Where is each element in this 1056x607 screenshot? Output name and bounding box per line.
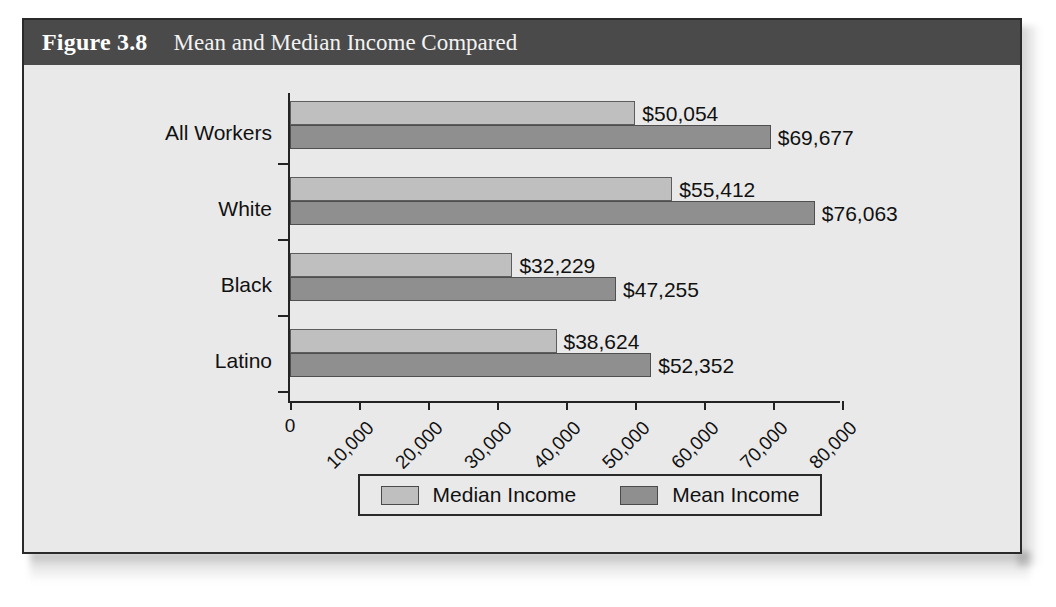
x-axis-tick — [497, 401, 499, 410]
legend-swatch-median-icon — [381, 486, 419, 505]
bar-mean[interactable] — [290, 353, 651, 377]
y-axis-tick — [278, 239, 289, 241]
category-label: White — [32, 197, 272, 221]
bar-mean[interactable] — [290, 201, 815, 225]
figure-number: Figure 3.8 — [42, 29, 148, 56]
bar-value-label: $52,352 — [658, 354, 734, 378]
category-label: All Workers — [32, 121, 272, 145]
figure-title: Mean and Median Income Compared — [174, 30, 518, 56]
x-axis-line — [288, 401, 840, 403]
legend-label-mean: Mean Income — [672, 483, 799, 507]
bar-median[interactable] — [290, 101, 635, 125]
x-axis-tick — [290, 401, 292, 410]
chart-legend: Median Income Mean Income — [358, 474, 822, 516]
x-axis-tick — [842, 401, 844, 410]
bar-median[interactable] — [290, 253, 512, 277]
x-axis-tick — [566, 401, 568, 410]
y-axis-tick — [278, 391, 289, 393]
bar-value-label: $69,677 — [778, 126, 854, 150]
chart-panel: All Workers$50,054$69,677White$55,412$76… — [24, 65, 1020, 552]
bar-value-label: $47,255 — [623, 278, 699, 302]
bar-mean[interactable] — [290, 277, 616, 301]
legend-swatch-mean-icon — [620, 486, 658, 505]
x-axis-tick — [773, 401, 775, 410]
y-axis-tick — [278, 315, 289, 317]
x-axis-tick — [635, 401, 637, 410]
y-axis-tick — [278, 163, 289, 165]
figure-page: Figure 3.8 Mean and Median Income Compar… — [0, 0, 1056, 607]
x-axis-tick-label: 0 — [274, 415, 306, 437]
bar-mean[interactable] — [290, 125, 771, 149]
bar-median[interactable] — [290, 177, 672, 201]
legend-item-mean[interactable]: Mean Income — [620, 483, 799, 507]
x-axis-tick — [359, 401, 361, 410]
figure-title-bar: Figure 3.8 Mean and Median Income Compar… — [24, 20, 1020, 65]
category-label: Latino — [32, 349, 272, 373]
x-axis-tick — [704, 401, 706, 410]
page-scan-shadow — [30, 552, 1030, 582]
bar-value-label: $32,229 — [519, 254, 595, 278]
legend-item-median[interactable]: Median Income — [381, 483, 577, 507]
figure-container: Figure 3.8 Mean and Median Income Compar… — [22, 18, 1022, 554]
bar-value-label: $76,063 — [822, 202, 898, 226]
x-axis-tick — [428, 401, 430, 410]
bar-value-label: $38,624 — [564, 330, 640, 354]
category-label: Black — [32, 273, 272, 297]
bar-value-label: $55,412 — [679, 178, 755, 202]
legend-label-median: Median Income — [433, 483, 577, 507]
bar-median[interactable] — [290, 329, 557, 353]
bar-value-label: $50,054 — [642, 102, 718, 126]
